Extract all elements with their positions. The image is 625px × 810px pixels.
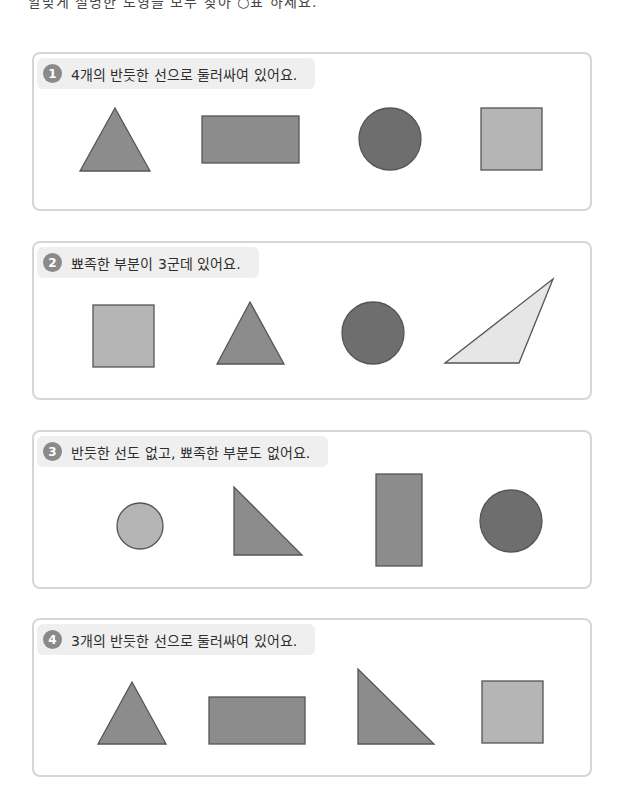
- square-shape[interactable]: [93, 305, 154, 367]
- right-triangle-shape[interactable]: [358, 669, 434, 744]
- tall-rectangle-shape[interactable]: [376, 474, 422, 566]
- triangle-shape[interactable]: [98, 682, 166, 744]
- triangle-shape[interactable]: [217, 302, 284, 364]
- rectangle-shape[interactable]: [202, 116, 299, 163]
- circle-shape[interactable]: [117, 503, 163, 549]
- triangle-shape[interactable]: [80, 108, 150, 171]
- rectangle-shape[interactable]: [209, 697, 305, 744]
- circle-shape[interactable]: [342, 302, 404, 364]
- square-shape[interactable]: [482, 681, 543, 743]
- square-shape[interactable]: [481, 108, 542, 170]
- obtuse-triangle-shape[interactable]: [445, 279, 553, 363]
- right-triangle-shape[interactable]: [234, 487, 302, 555]
- shapes-layer: [0, 0, 625, 810]
- circle-shape[interactable]: [359, 108, 421, 170]
- circle-shape[interactable]: [480, 490, 542, 552]
